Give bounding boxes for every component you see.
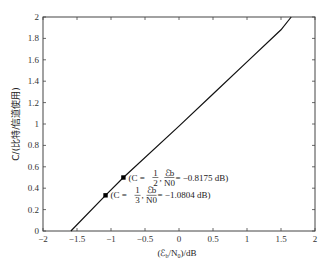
x-tick-label: −0.5 <box>137 234 154 244</box>
y-tick-label: 0.8 <box>28 140 40 150</box>
svg-text:= −1.0804 dB): = −1.0804 dB) <box>158 190 211 200</box>
y-tick-label: 0.2 <box>28 205 39 215</box>
svg-text:ℰb: ℰb <box>165 168 175 178</box>
y-tick-label: 1.2 <box>28 98 39 108</box>
x-tick-label: 0.5 <box>207 234 219 244</box>
y-tick-label: 2 <box>35 12 40 22</box>
x-tick-label: 1.5 <box>275 234 287 244</box>
x-axis-label: (ℰb/N0)/dB <box>157 248 196 259</box>
y-tick-label: 0.6 <box>28 162 40 172</box>
y-tick-label: 0.4 <box>28 183 40 193</box>
svg-text:= −0.8175 dB): = −0.8175 dB) <box>175 173 228 183</box>
point-annotation: (C = 13, ℰbN0 = −1.0804 dB) <box>111 185 211 205</box>
x-tick-label: 2 <box>313 234 318 244</box>
svg-text:,: , <box>159 173 161 183</box>
svg-text:N0: N0 <box>164 178 175 188</box>
svg-text:(C =: (C = <box>128 173 144 183</box>
x-tick-label: 1 <box>245 234 250 244</box>
x-tick-label: −1.5 <box>69 234 86 244</box>
x-tick-label: −1 <box>106 234 116 244</box>
capacity-chart: −2−1.5−1−0.500.511.5200.20.40.60.811.21.… <box>0 0 329 273</box>
svg-text:(C =: (C = <box>111 190 127 200</box>
svg-text:1: 1 <box>135 185 140 195</box>
svg-text:N0: N0 <box>146 195 157 205</box>
axis-ticks: −2−1.5−1−0.500.511.5200.20.40.60.811.21.… <box>28 12 318 244</box>
annotated-points: (C = 12, ℰbN0 = −0.8175 dB)(C = 13, ℰbN0… <box>103 168 228 206</box>
y-axis-label: C/(比特/信道使用) <box>10 87 21 160</box>
svg-text:ℰb: ℰb <box>147 185 157 195</box>
y-tick-label: 1 <box>35 119 40 129</box>
svg-text:3: 3 <box>135 195 140 205</box>
data-point-marker <box>121 175 125 179</box>
svg-text:1: 1 <box>153 168 158 178</box>
y-tick-label: 0 <box>35 226 40 236</box>
y-tick-label: 1.8 <box>28 33 40 43</box>
data-point-marker <box>103 193 107 197</box>
x-tick-label: −2 <box>38 234 48 244</box>
y-tick-label: 1.6 <box>28 55 40 65</box>
x-tick-label: 0 <box>177 234 182 244</box>
y-tick-label: 1.4 <box>28 76 40 86</box>
svg-text:,: , <box>142 190 144 200</box>
point-annotation: (C = 12, ℰbN0 = −0.8175 dB) <box>128 168 228 188</box>
